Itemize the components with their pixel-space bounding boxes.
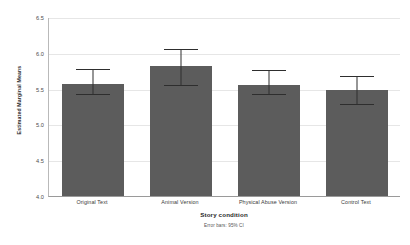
error-bar — [76, 69, 110, 95]
bar — [238, 85, 300, 196]
bar-group — [137, 18, 225, 196]
y-tick-label: 6.5 — [18, 15, 44, 21]
error-bar — [164, 49, 198, 86]
bars-layer — [49, 18, 400, 196]
y-axis-tick-labels: 4.04.55.05.56.06.5 — [18, 0, 44, 245]
error-bar-cap-bottom — [76, 94, 110, 95]
x-tick-label: Physical Abuse Version — [239, 199, 297, 205]
error-bar-cap-bottom — [252, 94, 286, 95]
x-tick-label: Animal Version — [161, 199, 198, 205]
error-bar-stem — [181, 49, 182, 86]
y-tick-label: 5.0 — [18, 122, 44, 128]
bar — [326, 90, 388, 196]
x-axis-title: Story condition — [48, 211, 400, 218]
error-bar-cap-top — [76, 69, 110, 70]
error-bar-stem — [357, 76, 358, 105]
error-bar-cap-bottom — [164, 85, 198, 86]
bar-group — [313, 18, 401, 196]
bar-group — [225, 18, 313, 196]
error-bar — [340, 76, 374, 105]
x-tick-label: Control Text — [341, 199, 371, 205]
error-bar-cap-top — [252, 70, 286, 71]
error-bar-stem — [269, 70, 270, 95]
y-tick-label: 4.5 — [18, 158, 44, 164]
y-tick-label: 4.0 — [18, 194, 44, 200]
y-tick-label: 6.0 — [18, 51, 44, 57]
y-tick-label: 5.5 — [18, 87, 44, 93]
error-bar-note: Error bars: 95% CI — [48, 223, 400, 228]
bar-chart: Estimated Marginal Means 4.04.55.05.56.0… — [0, 0, 410, 245]
error-bar-cap-bottom — [340, 104, 374, 105]
error-bar-cap-top — [340, 76, 374, 77]
bar-group — [49, 18, 137, 196]
error-bar-stem — [93, 69, 94, 95]
bar — [62, 84, 124, 196]
plot-area — [48, 18, 400, 197]
x-axis-tick-labels: Original TextAnimal VersionPhysical Abus… — [48, 199, 400, 211]
x-tick-label: Original Text — [76, 199, 107, 205]
error-bar-cap-top — [164, 49, 198, 50]
error-bar — [252, 70, 286, 95]
